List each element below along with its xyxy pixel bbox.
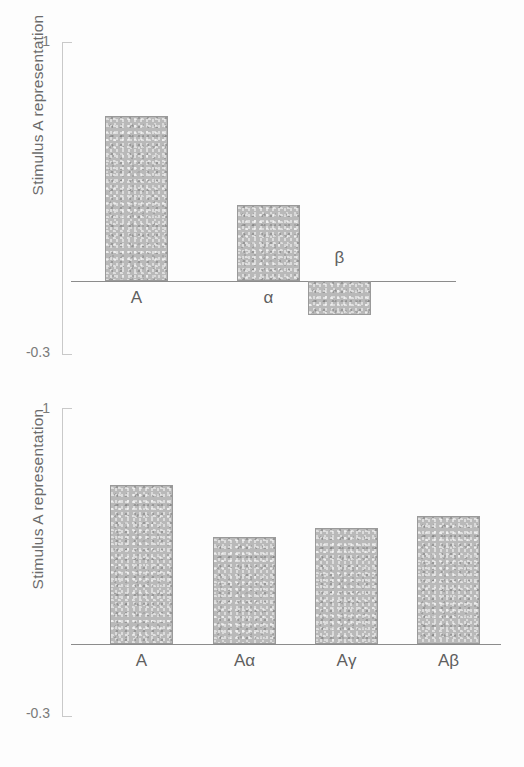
x-tick-label-bottom-0: A	[110, 651, 173, 671]
figure-page: Stimulus A representation 1 -0.3 A α β S…	[0, 0, 524, 767]
x-tick-label-bottom-3: Aβ	[417, 651, 480, 671]
y-tick-label-top-max: 1	[8, 33, 50, 49]
y-axis-label-bottom: Stimulus A representation	[29, 389, 47, 609]
chart-panel-bottom: Stimulus A representation 1 -0.3 A Aα Aγ…	[0, 390, 524, 767]
x-tick-label-bottom-1: Aα	[213, 651, 276, 671]
y-tick-label-bottom-max: 1	[8, 400, 50, 416]
plot-area-top: A α β	[62, 0, 524, 390]
chart-panel-top: Stimulus A representation 1 -0.3 A α β	[0, 0, 524, 390]
x-tick-label-top-1: α	[237, 288, 300, 308]
zero-baseline-bottom	[71, 644, 501, 645]
plot-area-bottom: A Aα Aγ Aβ	[62, 390, 524, 767]
bar-top-1	[237, 205, 300, 281]
bar-bottom-3	[417, 516, 480, 644]
x-tick-label-top-2: β	[308, 248, 371, 268]
bar-bottom-1	[213, 537, 276, 644]
y-tick-label-bottom-min: -0.3	[0, 705, 50, 721]
x-tick-label-bottom-2: Aγ	[315, 651, 378, 671]
bar-top-2	[308, 281, 371, 315]
bar-bottom-0	[110, 485, 173, 644]
x-tick-label-top-0: A	[105, 288, 168, 308]
zero-baseline-top	[71, 281, 456, 282]
bar-bottom-2	[315, 528, 378, 644]
bar-top-0	[105, 116, 168, 281]
y-tick-label-top-min: -0.3	[0, 344, 50, 360]
